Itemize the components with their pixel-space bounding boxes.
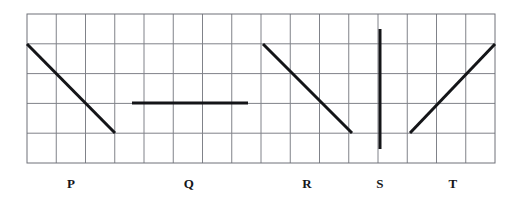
segment-r: [263, 44, 352, 133]
segment-label-t: T: [449, 176, 458, 192]
segment-t: [410, 44, 495, 133]
grid-layer: [27, 14, 495, 163]
line-segments-diagram: [0, 0, 514, 208]
segment-label-s: S: [376, 176, 383, 192]
segment-label-r: R: [302, 176, 312, 192]
segment-label-p: P: [67, 176, 75, 192]
segment-label-q: Q: [184, 176, 194, 192]
grid-lines-vertical: [56, 14, 466, 163]
segment-p: [27, 44, 115, 133]
